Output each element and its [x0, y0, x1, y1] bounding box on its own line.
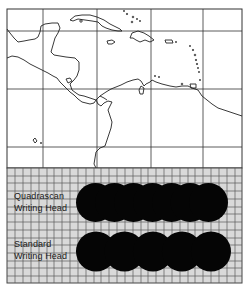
standard-label-line1: Standard	[14, 239, 67, 251]
quadrascan-dot-row	[76, 183, 228, 222]
writing-head-comparison-figure: Quadrascan Writing Head Standard Writing…	[0, 0, 249, 288]
quadrascan-label-line2: Writing Head	[14, 203, 67, 215]
comparison-grid-panel	[7, 168, 242, 283]
map-panel	[7, 9, 242, 168]
standard-dot-row	[76, 232, 231, 272]
quadrascan-label-line1: Quadrascan	[14, 191, 67, 203]
standard-label-line2: Writing Head	[14, 251, 67, 263]
standard-writing-head-label: Standard Writing Head	[14, 239, 67, 262]
quadrascan-writing-head-label: Quadrascan Writing Head	[14, 191, 67, 214]
